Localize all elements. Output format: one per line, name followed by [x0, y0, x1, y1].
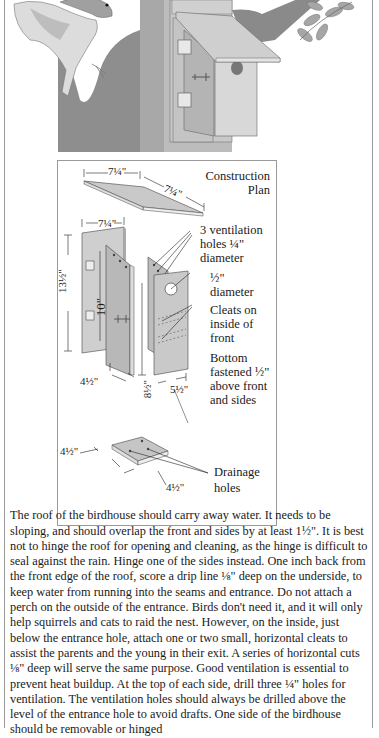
roof-dim-width: 7¼" — [108, 165, 126, 177]
hinge-icon — [86, 261, 94, 270]
construction-plan: Construction Plan 7¼" 7¼" 7¼" 13½" 10" 4… — [57, 160, 277, 526]
birdhouse-illustration — [0, 0, 379, 160]
plan-title-line1: Construction — [178, 169, 270, 183]
bottom-dim-right: 4½" — [166, 481, 184, 493]
back-dim-height: 13½" — [56, 269, 68, 293]
side-board-icon — [106, 245, 130, 375]
back-dim-width: 7¼" — [98, 217, 116, 229]
plan-title-line2: Plan — [178, 183, 270, 197]
bottom-dim-left: 4½" — [60, 445, 78, 457]
article-paragraph: The roof of the birdhouse should carry a… — [10, 508, 370, 737]
side-dim-width: 4½" — [80, 375, 98, 387]
entrance-hole-icon — [231, 61, 243, 75]
front-dim-width: 5½" — [170, 383, 188, 395]
post-icon — [140, 0, 164, 152]
side-dim-height: 10" — [93, 298, 109, 316]
front-dim-height: 8½" — [141, 380, 153, 398]
